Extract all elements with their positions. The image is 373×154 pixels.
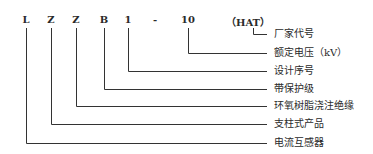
connector-lines	[0, 0, 373, 154]
label-current-transformer: 电流互感器	[274, 137, 324, 149]
label-protection-class: 带保护级	[274, 83, 314, 95]
label-rated-voltage: 额定电压（kV）	[274, 47, 347, 59]
label-manufacturer-code: 厂家代号	[274, 28, 314, 40]
label-epoxy-insulation: 环氧树脂浇注绝缘	[274, 100, 354, 112]
label-design-serial: 设计序号	[274, 65, 314, 77]
label-post-type: 支柱式产品	[274, 118, 324, 130]
